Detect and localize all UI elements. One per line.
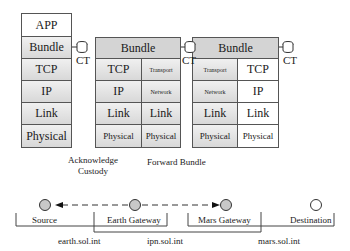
node-label-earth-gateway: Earth Gateway (107, 215, 161, 225)
database-icon (181, 42, 195, 53)
database-icon (279, 42, 293, 53)
acknowledge-arrow (55, 202, 128, 208)
node-source (40, 200, 51, 211)
region-label-earth: earth.sol.int (58, 236, 101, 246)
node-label-destination: Destination (290, 215, 332, 225)
node-earth-gateway (130, 200, 141, 211)
node-mars-gateway (221, 200, 232, 211)
acknowledge-label: Acknowledge Custody (58, 155, 128, 177)
node-label-source: Source (32, 215, 57, 225)
node-label-mars-gateway: Mars Gateway (198, 215, 251, 225)
region-label-mars: mars.sol.int (258, 236, 300, 246)
forward-label: Forward Bundle (147, 157, 206, 167)
diagram-graphics (0, 0, 350, 251)
acknowledge-text: Acknowledge (58, 155, 128, 166)
node-destination (311, 200, 322, 211)
region-label-ipn: ipn.sol.int (147, 236, 183, 246)
custody-text: Custody (58, 166, 128, 177)
database-icon (72, 42, 87, 53)
forward-arrow (142, 202, 220, 208)
